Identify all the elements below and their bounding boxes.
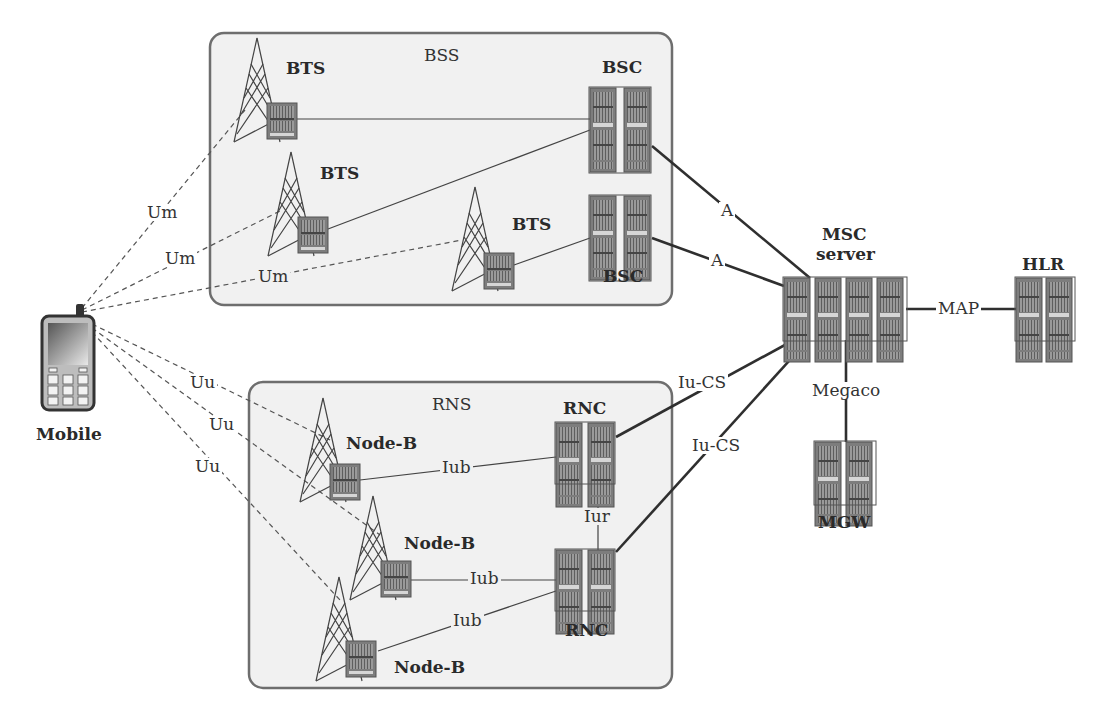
mobile-label: Mobile <box>36 426 102 443</box>
bsc1-label: BSC <box>602 59 642 76</box>
bts1-label: BTS <box>286 60 325 77</box>
uu-label-3: Uu <box>193 458 222 475</box>
bts3-label: BTS <box>512 216 551 233</box>
a-label-2: A <box>709 252 725 269</box>
um-label-2: Um <box>163 250 197 267</box>
um-label-1: Um <box>145 204 179 221</box>
uu-label-1: Uu <box>188 374 217 391</box>
um-label-3: Um <box>256 268 290 285</box>
iur-label: Iur <box>582 508 612 525</box>
iucs-label-2: Iu-CS <box>690 437 742 454</box>
megaco-label: Megaco <box>810 382 882 399</box>
nodeb2-label: Node-B <box>404 535 475 552</box>
iucs-label-1: Iu-CS <box>676 374 728 391</box>
nodeb1-label: Node-B <box>346 435 417 452</box>
bss-group-label: BSS <box>424 47 460 64</box>
network-diagram <box>0 0 1109 728</box>
bts2-label: BTS <box>320 165 359 182</box>
a-label-1: A <box>719 202 735 219</box>
rnc1-label: RNC <box>563 400 606 417</box>
hlr-label: HLR <box>1022 256 1064 273</box>
mgw-label: MGW <box>818 514 870 531</box>
iub-label-3: Iub <box>451 612 484 629</box>
msc-label-line2: server <box>816 246 875 263</box>
map-label: MAP <box>936 300 981 317</box>
nodeb3-label: Node-B <box>394 659 465 676</box>
mobile-phone-icon <box>42 304 94 410</box>
bsc2-label: BSC <box>603 268 643 285</box>
msc-label-line1: MSC <box>822 226 867 243</box>
rnc2-label: RNC <box>565 622 608 639</box>
uu-label-2: Uu <box>207 416 236 433</box>
rns-group-label: RNS <box>432 396 471 413</box>
hlr-rack <box>1015 277 1075 362</box>
iub-label-2: Iub <box>468 570 501 587</box>
iub-label-1: Iub <box>440 459 473 476</box>
